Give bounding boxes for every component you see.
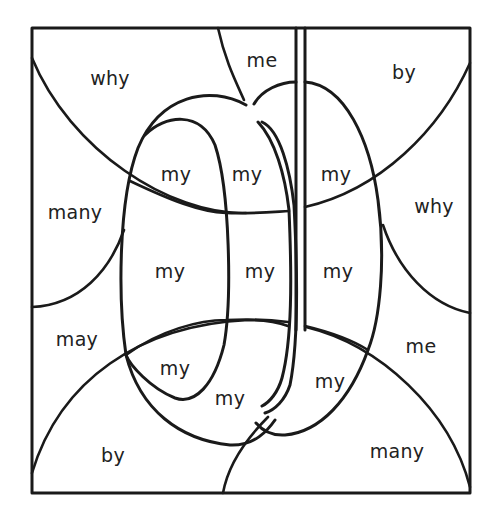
region-label[interactable]: why [90, 69, 130, 88]
region-label[interactable]: my [232, 165, 262, 184]
region-label[interactable]: my [315, 372, 345, 391]
region-label[interactable]: many [370, 442, 425, 461]
region-label[interactable]: my [245, 262, 275, 281]
region-label[interactable]: by [101, 446, 125, 465]
region-label[interactable]: many [48, 203, 103, 222]
top-right-arc [305, 63, 470, 207]
top-left-arc [32, 58, 246, 213]
bottom-right-arc [306, 327, 470, 487]
region-label[interactable]: my [160, 359, 190, 378]
region-label[interactable]: me [247, 51, 278, 70]
region-label[interactable]: why [414, 197, 454, 216]
region-label[interactable]: my [155, 262, 185, 281]
right-why-arc [383, 225, 470, 313]
me-left-curve [218, 28, 244, 100]
region-label[interactable]: me [406, 337, 437, 356]
left-many-arc [32, 230, 124, 307]
region-label[interactable]: my [215, 389, 245, 408]
region-label[interactable]: my [321, 165, 351, 184]
coloring-worksheet: why me by my my my many why my my my may… [0, 0, 488, 520]
region-label[interactable]: by [392, 63, 416, 82]
region-label[interactable]: may [56, 330, 98, 349]
region-label[interactable]: my [161, 165, 191, 184]
region-label[interactable]: my [323, 262, 353, 281]
